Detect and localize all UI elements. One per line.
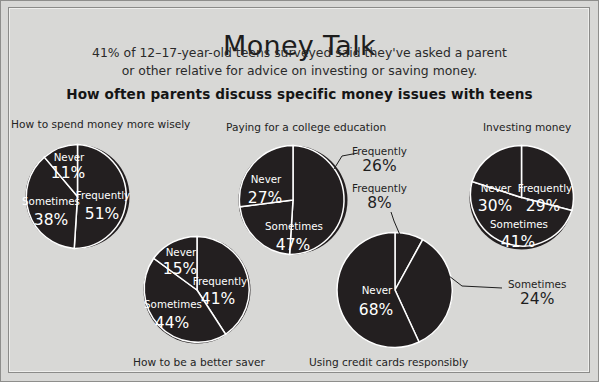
pie-label-sometimes-cat: Sometimes (265, 220, 323, 232)
pie-label-frequently-cat: Frequently (518, 182, 572, 194)
outside-label-credit-sometimes: Sometimes 24% (508, 279, 566, 307)
pie-label-sometimes-cat: Sometimes (22, 195, 80, 207)
pie-label-never-pct: 15% (163, 260, 197, 278)
section-heading: How often parents discuss specific money… (0, 86, 599, 102)
pie-label-frequently-pct: 41% (201, 290, 235, 308)
pie-label-never-cat: Never (251, 173, 282, 185)
pie-label-never-pct: 30% (478, 197, 512, 215)
pie-chart-spend-wisely: Frequently 51% Sometimes 38% Never 11% (25, 144, 130, 249)
pie-svg-investing: Frequently 29% Sometimes 41% Never 30% (469, 145, 574, 250)
pie-chart-better-saver: Frequently 41% Sometimes 44% Never 15% (143, 236, 251, 344)
chart-caption-spend-wisely: How to spend money more wisely (11, 118, 190, 130)
pie-label-sometimes-pct: 47% (276, 236, 310, 254)
outside-label-college-frequently: Frequently 26% (352, 146, 407, 174)
outside-label-cat: Frequently (352, 146, 407, 157)
pie-chart-college: Sometimes 47% Never 27% (238, 145, 348, 255)
pie-label-sometimes-pct: 44% (155, 314, 189, 332)
pie-label-never: Never 27% (248, 173, 282, 207)
pie-label-sometimes-pct: 38% (34, 211, 68, 229)
leader-line-credit-sometimes (440, 268, 504, 292)
pie-label-frequently-cat: Frequently (76, 189, 130, 201)
leader-line-credit-frequently (388, 212, 402, 236)
pie-svg-spend-wisely: Frequently 51% Sometimes 38% Never 11% (25, 144, 130, 249)
chart-caption-credit-cards: Using credit cards responsibly (309, 356, 468, 368)
outside-label-pct: 8% (352, 195, 407, 211)
pie-svg-better-saver: Frequently 41% Sometimes 44% Never 15% (143, 236, 251, 344)
pie-chart-investing: Frequently 29% Sometimes 41% Never 30% (469, 145, 574, 250)
infographic-poster: Money Talk 41% of 12–17-year-old teens s… (0, 0, 599, 382)
poster-subtitle: 41% of 12–17-year-old teens surveyed sai… (0, 44, 599, 80)
pie-label-never-pct: 68% (359, 301, 393, 319)
chart-caption-better-saver: How to be a better saver (133, 356, 265, 368)
pie-chart-credit-cards: Never 68% (337, 232, 453, 348)
pie-label-sometimes-cat: Sometimes (144, 298, 202, 310)
outside-label-cat: Sometimes (508, 279, 566, 290)
pie-label-sometimes-pct: 41% (501, 233, 535, 251)
outside-label-pct: 26% (352, 158, 407, 174)
pie-label-never-cat: Never (54, 151, 85, 163)
pie-label-frequently-cat: Frequently (193, 275, 247, 287)
pie-label-never-pct: 11% (51, 164, 85, 182)
outside-label-pct: 24% (508, 291, 566, 307)
pie-svg-college: Sometimes 47% Never 27% (238, 145, 348, 255)
outside-label-credit-frequently: Frequently 8% (352, 183, 407, 211)
pie-label-never: Never 15% (163, 246, 197, 278)
pie-label-never-cat: Never (166, 246, 197, 258)
chart-caption-college: Paying for a college education (226, 121, 386, 133)
pie-label-sometimes-cat: Sometimes (490, 218, 548, 230)
pie-label-never: Never 30% (478, 182, 512, 215)
pie-label-never-cat: Never (481, 182, 512, 194)
pie-label-never: Never 11% (51, 151, 85, 182)
pie-label-never-cat: Never (362, 284, 393, 296)
outside-label-cat: Frequently (352, 183, 407, 194)
chart-caption-investing: Investing money (483, 121, 571, 133)
pie-label-never-pct: 27% (248, 189, 282, 207)
subtitle-line-2: or other relative for advice on investin… (0, 62, 599, 80)
pie-svg-credit-cards: Never 68% (337, 232, 453, 348)
pie-label-never: Never 68% (359, 284, 393, 319)
pie-label-frequently-pct: 51% (85, 205, 119, 223)
pie-label-frequently-pct: 29% (526, 197, 560, 215)
subtitle-line-1: 41% of 12–17-year-old teens surveyed sai… (0, 44, 599, 62)
